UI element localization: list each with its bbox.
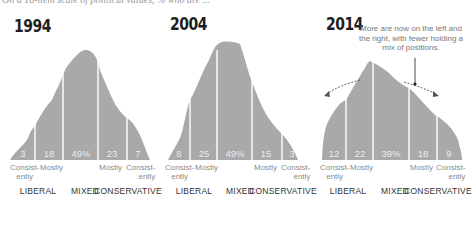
sublabel-2014-mostly-right: Mostly xyxy=(410,163,433,172)
sublabel-1994-mostly-left: Mostly xyxy=(40,163,63,172)
sublabel-2014-consistently-left: Consist- ently xyxy=(320,163,349,181)
sublabel-2004-mostly-right: Mostly xyxy=(254,163,277,172)
sublabel-1994-consistently-left: Consist- ently xyxy=(10,163,39,181)
category-2014-conservative: CONSERVATIVE xyxy=(404,186,472,196)
value-2004-0: 8 xyxy=(176,148,181,159)
value-1994-2: 49% xyxy=(71,148,90,159)
sublabel-2014-consistently-right: Consist- ently xyxy=(436,163,465,181)
value-2014-3: 18 xyxy=(418,148,429,159)
value-2014-4: 9 xyxy=(446,148,451,159)
value-2004-1: 25 xyxy=(199,148,210,159)
value-2014-2: 39% xyxy=(381,148,400,159)
sublabel-2004-consistently-left: Consist- ently xyxy=(165,163,194,181)
sublabel-2004-consistently-right: Consist- ently xyxy=(281,163,310,181)
category-1994-liberal: LIBERAL xyxy=(20,186,56,196)
sublabel-1994-consistently-right: Consist- ently xyxy=(126,163,155,181)
category-2004-conservative: CONSERVATIVE xyxy=(249,186,317,196)
category-2014-liberal: LIBERAL xyxy=(330,186,366,196)
value-1994-4: 7 xyxy=(135,148,140,159)
category-2004-liberal: LIBERAL xyxy=(176,186,212,196)
sublabel-1994-mostly-right: Mostly xyxy=(99,163,122,172)
area-2014 xyxy=(322,61,462,160)
area-1994 xyxy=(10,50,150,160)
value-2004-2: 49% xyxy=(225,148,244,159)
annotation-text: More are now on the left and the right, … xyxy=(354,24,468,53)
value-1994-0: 3 xyxy=(20,148,25,159)
sublabel-2014-mostly-left: Mostly xyxy=(350,163,373,172)
value-2004-4: 3 xyxy=(289,148,294,159)
value-1994-1: 18 xyxy=(44,148,55,159)
area-2004 xyxy=(168,42,298,160)
value-2014-1: 22 xyxy=(355,148,366,159)
value-2014-0: 12 xyxy=(329,148,340,159)
value-1994-3: 23 xyxy=(107,148,118,159)
sublabel-2004-mostly-left: Mostly xyxy=(195,163,218,172)
category-1994-conservative: CONSERVATIVE xyxy=(94,186,162,196)
value-2004-3: 15 xyxy=(261,148,272,159)
